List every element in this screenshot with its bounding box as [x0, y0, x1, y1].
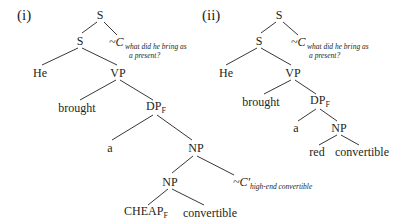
node-he: He — [33, 67, 47, 79]
node-cheap-f: CHEAPF — [124, 205, 168, 222]
node-convertible: convertible — [335, 146, 389, 158]
node-s-child: S — [77, 35, 84, 47]
alt-set-subscript-line2: a present? — [129, 51, 160, 60]
node-vp: VP — [285, 67, 300, 79]
dp-sub-f: F — [161, 106, 165, 115]
node-alt-set-c: ~C — [291, 36, 306, 48]
node-a: a — [293, 122, 298, 134]
node-dp-f: DPF — [310, 94, 330, 111]
alt-set-subscript-line1: what did he bring as — [125, 42, 187, 51]
dp-sub-f: F — [325, 100, 329, 109]
alt-set-symbol: ~C — [291, 35, 306, 49]
tree-label: (i) — [17, 8, 31, 23]
node-s-root: S — [276, 9, 283, 21]
cheap-text: CHEAP — [124, 204, 163, 218]
node-convertible: convertible — [183, 207, 237, 219]
node-alt-set-c-prime: ~C′ — [233, 176, 250, 188]
node-alt-set-c: ~C — [109, 36, 124, 48]
node-vp: VP — [110, 67, 125, 79]
node-np-lower: NP — [162, 176, 177, 188]
tree-label: (ii) — [202, 8, 220, 23]
alt-set2-subscript: high-end convertible — [250, 182, 312, 191]
alt-set-subscript-line2: a present? — [309, 51, 340, 60]
alt-set2-symbol: ~C′ — [233, 175, 250, 189]
dp-text: DP — [310, 93, 325, 107]
node-dp-f: DPF — [146, 100, 166, 117]
alt-set-subscript-line1: what did he bring as — [307, 42, 369, 51]
node-np: NP — [331, 122, 346, 134]
dp-text: DP — [146, 99, 161, 113]
node-red: red — [309, 146, 324, 158]
alt-set-symbol: ~C — [109, 35, 124, 49]
node-brought: brought — [58, 102, 95, 114]
node-brought: brought — [242, 96, 279, 108]
node-s-root: S — [97, 9, 104, 21]
node-a: a — [107, 142, 112, 154]
node-np-upper: NP — [188, 142, 203, 154]
cheap-sub-f: F — [163, 211, 167, 220]
node-he: He — [219, 67, 233, 79]
node-s-child: S — [256, 35, 263, 47]
